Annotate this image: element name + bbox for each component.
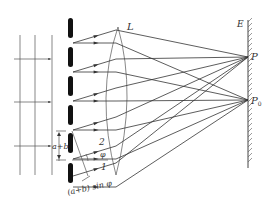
point-p0-label: P0 xyxy=(250,95,262,107)
screen-hatch xyxy=(248,108,252,112)
grating-slit xyxy=(68,105,73,125)
grating-slit xyxy=(68,47,73,67)
ray-arrow xyxy=(94,128,99,131)
screen-hatch xyxy=(248,18,252,22)
screen-hatch xyxy=(248,23,252,27)
screen-hatch xyxy=(248,78,252,82)
grating xyxy=(68,18,73,183)
screen-hatch xyxy=(248,28,252,32)
ray-to-P0 xyxy=(73,100,248,130)
ray-arrow xyxy=(93,34,99,39)
screen-hatch xyxy=(248,128,252,132)
grating-diagram: L E P P0 a+b 2 1 φ (a+b) sin φ xyxy=(0,0,275,205)
incident-arrows xyxy=(14,59,50,146)
screen-hatch xyxy=(248,143,252,147)
grating-constant-label: a+b xyxy=(52,142,69,151)
ray-arrow xyxy=(93,92,99,97)
angle-label: φ xyxy=(100,150,106,159)
ray-to-P0 xyxy=(73,72,248,100)
grating-slit xyxy=(68,18,73,38)
grating-slit xyxy=(68,133,73,153)
screen-hatch xyxy=(248,68,252,72)
screen-hatch xyxy=(248,138,252,142)
screen-hatch xyxy=(248,113,252,117)
screen-hatch xyxy=(248,83,252,87)
ray-arrow xyxy=(94,70,99,73)
screen-label: E xyxy=(236,19,244,29)
ray-1-label: 1 xyxy=(101,162,107,172)
ray-arrow xyxy=(93,63,99,68)
incident-wavefronts xyxy=(20,35,52,175)
screen-hatch xyxy=(248,38,252,42)
grating-slit xyxy=(68,163,73,183)
ray-arrow xyxy=(94,99,99,102)
ray-to-P xyxy=(73,57,248,72)
screen-hatch xyxy=(248,158,252,162)
ray-to-P xyxy=(73,30,248,57)
grating-slit xyxy=(68,76,73,96)
rays xyxy=(73,30,248,189)
ray-arrow xyxy=(93,167,99,172)
ray-arrow xyxy=(93,121,99,126)
screen-hatch xyxy=(248,88,252,92)
screen-hatch xyxy=(248,153,252,157)
screen-hatch xyxy=(248,118,252,122)
screen-hatch xyxy=(248,148,252,152)
path-difference-label: (a+b) sin φ xyxy=(67,179,114,197)
ray-to-P xyxy=(73,57,248,130)
screen xyxy=(248,18,252,168)
screen-hatch xyxy=(248,33,252,37)
screen-hatch xyxy=(248,73,252,77)
screen-hatch xyxy=(248,133,252,137)
screen-hatch xyxy=(248,123,252,127)
screen-hatch xyxy=(248,63,252,67)
ray-2-label: 2 xyxy=(98,137,105,147)
point-p-label: P xyxy=(250,51,258,62)
ray-arrow xyxy=(93,150,99,155)
lens-label: L xyxy=(126,21,134,32)
ray-to-P0 xyxy=(73,100,248,101)
ray-arrow xyxy=(94,41,99,44)
screen-hatch xyxy=(248,43,252,47)
